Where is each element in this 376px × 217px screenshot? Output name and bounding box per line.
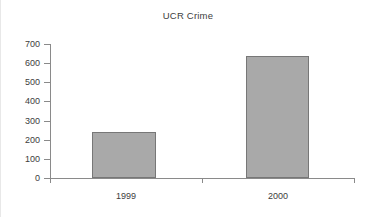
x-axis-tick-start <box>50 178 51 183</box>
y-axis-line <box>50 44 51 179</box>
y-axis-tick-label-500: 500 <box>6 78 40 87</box>
y-axis-tick-label-0: 0 <box>6 174 40 183</box>
x-axis-tick-mid <box>202 178 203 183</box>
y-axis-tick-label-100: 100 <box>6 155 40 164</box>
ucr-crime-bar-chart: UCR Crime 700 600 500 400 300 200 100 0 … <box>0 0 376 217</box>
y-axis-tick-200 <box>44 140 50 141</box>
x-axis-category-label-2000: 2000 <box>248 191 308 201</box>
y-axis-tick-500 <box>44 82 50 83</box>
plot-area: 700 600 500 400 300 200 100 0 1999 2000 <box>0 0 376 217</box>
x-axis-category-label-1999: 1999 <box>96 191 156 201</box>
y-axis-tick-700 <box>44 44 50 45</box>
y-axis-tick-100 <box>44 159 50 160</box>
y-axis-tick-label-600: 600 <box>6 59 40 68</box>
x-axis-tick-end <box>354 178 355 183</box>
y-axis-tick-label-200: 200 <box>6 136 40 145</box>
bar-1999[interactable] <box>92 132 156 178</box>
y-axis-tick-600 <box>44 63 50 64</box>
y-axis-tick-label-700: 700 <box>6 40 40 49</box>
y-axis-tick-400 <box>44 101 50 102</box>
y-axis-tick-label-300: 300 <box>6 117 40 126</box>
y-axis-tick-300 <box>44 121 50 122</box>
bar-2000[interactable] <box>246 56 309 178</box>
y-axis-tick-label-400: 400 <box>6 97 40 106</box>
